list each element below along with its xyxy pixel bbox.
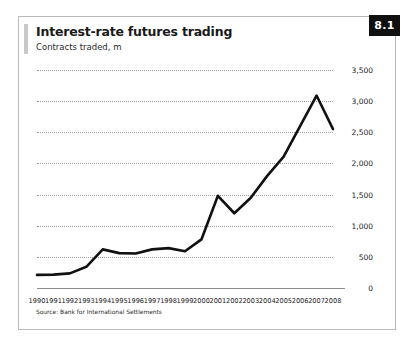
figure-frame: Interest-rate futures trading Contracts …	[18, 16, 396, 330]
x-axis-tick-label: 2001	[209, 297, 226, 305]
gridline	[37, 257, 333, 258]
gridline	[37, 163, 333, 164]
x-axis-tick-label: 1996	[127, 297, 144, 305]
x-axis-tick-label: 1991	[45, 297, 62, 305]
y-axis-tick-label: 3,000	[337, 97, 373, 106]
y-axis-tick-label: 2,000	[337, 159, 373, 168]
x-axis-labels: 1990199119921993199419951996199719981999…	[19, 297, 397, 309]
source-note: Source: Bank for International Settlemen…	[36, 309, 162, 315]
y-axis-tick-label: 500	[337, 253, 373, 262]
gridline	[37, 195, 333, 196]
gridline	[37, 70, 333, 71]
x-axis-tick-label: 2004	[259, 297, 276, 305]
plot-area: 05001,0001,5002,0002,5003,0003,500 19901…	[19, 17, 397, 331]
x-axis-tick-label: 1995	[111, 297, 128, 305]
y-axis-tick-label: 1,500	[337, 191, 373, 200]
x-axis-tick-label: 2003	[242, 297, 259, 305]
x-axis-tick-label: 2006	[292, 297, 309, 305]
gridline	[37, 132, 333, 133]
y-axis-tick-label: 2,500	[337, 128, 373, 137]
gridline	[37, 226, 333, 227]
x-axis-tick-label: 1999	[177, 297, 194, 305]
x-axis-tick-label: 2005	[275, 297, 292, 305]
gridline	[37, 101, 333, 102]
x-axis-tick-label: 1992	[61, 297, 78, 305]
x-axis-tick-label: 2008	[325, 297, 342, 305]
x-axis-tick-label: 1997	[144, 297, 161, 305]
y-axis-tick-label: 3,500	[337, 66, 373, 75]
x-axis-tick-label: 2007	[308, 297, 325, 305]
x-axis-tick-label: 1990	[29, 297, 46, 305]
x-axis-tick-label: 1993	[78, 297, 95, 305]
x-axis-tick-label: 2002	[226, 297, 243, 305]
x-axis-tick-label: 2000	[193, 297, 210, 305]
x-axis-line	[37, 288, 345, 289]
x-axis-tick-label: 1994	[94, 297, 111, 305]
y-axis-tick-label: 1,000	[337, 222, 373, 231]
x-axis-tick-label: 1998	[160, 297, 177, 305]
